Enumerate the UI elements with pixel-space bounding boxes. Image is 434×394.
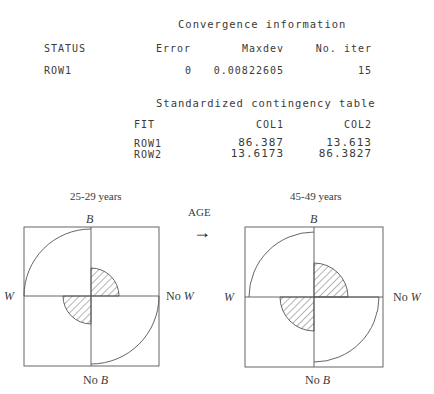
hatched-quarter-bottom-left xyxy=(63,296,91,324)
hatched-quarter-top-right xyxy=(91,268,119,296)
large-quarter-top-left xyxy=(24,229,91,296)
panel-45-49 xyxy=(245,227,383,367)
panel-left-left-label: W xyxy=(4,289,14,304)
large-quarter-bottom-right xyxy=(314,297,379,362)
large-quarter-bottom-right xyxy=(91,296,159,364)
panel-left-bottom-label: No B xyxy=(83,373,108,388)
panel-right-right-label: No W xyxy=(393,290,421,305)
fourfold-diagrams xyxy=(0,0,434,394)
hatched-quarter-top-right xyxy=(314,263,348,297)
panel-right-left-label: W xyxy=(224,290,234,305)
large-quarter-top-left xyxy=(249,232,314,297)
panel-right-bottom-label: No B xyxy=(305,373,330,388)
panel-left-title: 25-29 years xyxy=(70,190,122,202)
panel-left-right-label: No W xyxy=(166,289,194,304)
panel-right-top-label: B xyxy=(310,212,317,227)
panel-left-top-label: B xyxy=(86,212,93,227)
panel-right-title: 45-49 years xyxy=(290,190,342,202)
arrow-right-icon: → xyxy=(193,222,211,243)
age-label: AGE xyxy=(188,206,211,218)
panel-25-29 xyxy=(24,227,159,366)
hatched-quarter-bottom-left xyxy=(280,297,314,331)
